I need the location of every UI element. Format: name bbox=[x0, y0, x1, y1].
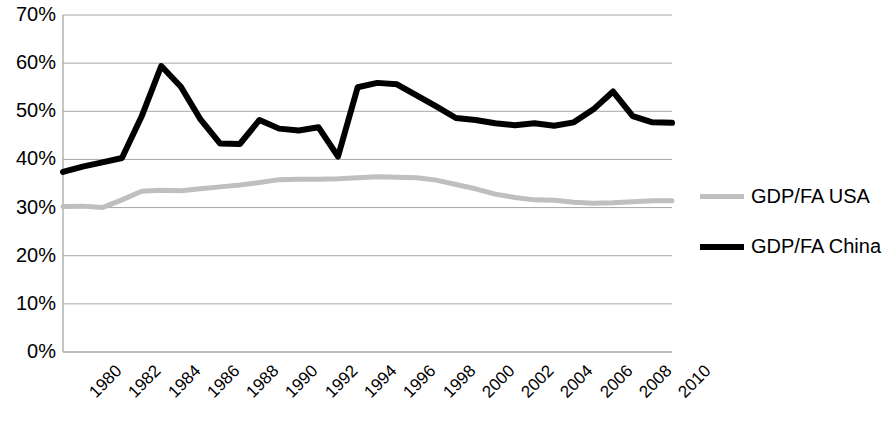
legend-item-china: GDP/FA China bbox=[700, 235, 881, 258]
legend-line-swatch-usa bbox=[700, 194, 744, 199]
series-line-gdp-fa-usa bbox=[63, 177, 672, 208]
legend-label-china: GDP/FA China bbox=[751, 235, 881, 258]
chart-legend: GDP/FA USA GDP/FA China bbox=[700, 185, 881, 258]
legend-item-usa: GDP/FA USA bbox=[700, 185, 881, 208]
series-line-gdp-fa-china bbox=[63, 66, 672, 172]
legend-label-usa: GDP/FA USA bbox=[751, 185, 870, 208]
legend-line-swatch-china bbox=[700, 244, 744, 250]
chart-container: 70%60%50%40%30%20%10%0% 1980198219841986… bbox=[0, 0, 889, 421]
